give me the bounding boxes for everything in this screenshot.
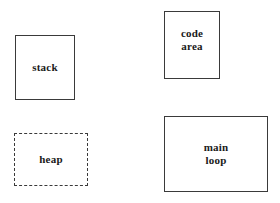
block-code-area: code area: [164, 11, 220, 79]
block-main-loop: main loop: [164, 116, 268, 192]
block-heap-label: heap: [39, 153, 62, 166]
memory-layout-diagram: stack heap code area main loop: [0, 0, 280, 203]
block-stack-label: stack: [32, 61, 57, 74]
block-code-area-label: code area: [181, 12, 203, 53]
block-main-loop-label: main loop: [204, 141, 229, 167]
block-heap: heap: [14, 133, 88, 186]
block-stack: stack: [15, 35, 75, 100]
